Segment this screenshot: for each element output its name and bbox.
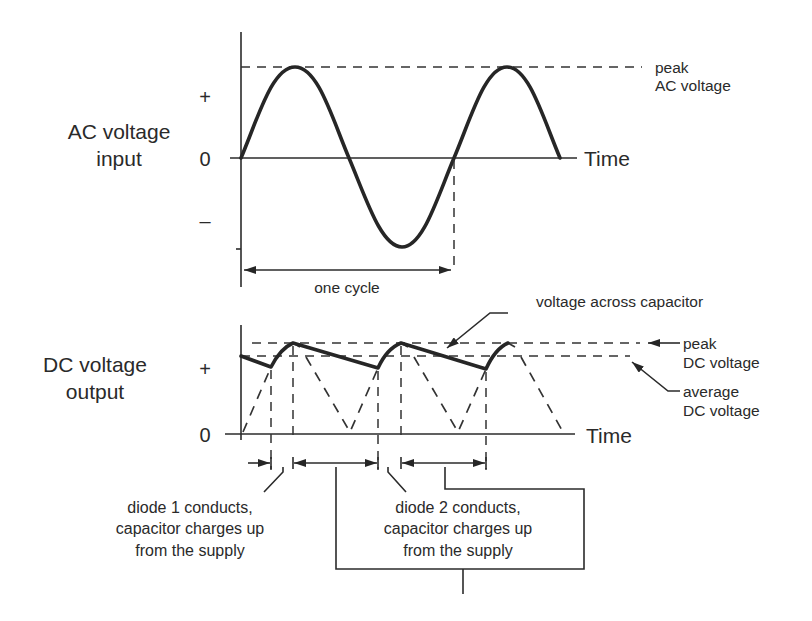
dc-average-label-line2: DC voltage [683, 402, 760, 419]
ac-zero-label: 0 [199, 148, 210, 170]
dc-peak-label-line1: peak [683, 335, 717, 352]
ac-minus-label: – [199, 210, 211, 232]
dc-title-line1: DC voltage [43, 353, 147, 376]
dc-zero-label: 0 [199, 424, 210, 446]
diode1-leader [264, 467, 283, 492]
dc-peak-label-line2: DC voltage [683, 354, 760, 371]
capacitor-label: voltage across capacitor [536, 293, 703, 310]
ac-peak-label-line1: peak [655, 59, 689, 76]
ac-title-line2: input [96, 147, 142, 170]
diode2-leader [388, 467, 406, 492]
ac-sine-wave [241, 67, 560, 247]
ac-plus-label: + [199, 86, 211, 108]
rectifier-diagram: AC voltage input + 0 – Time peak AC volt… [0, 0, 812, 621]
dc-average-arrow [632, 362, 680, 391]
diode1-text-line1: diode 1 conducts, [127, 499, 252, 516]
conduction-annotations: diode 1 conducts, capacitor charges up f… [116, 457, 584, 594]
diode2-text-line1: diode 2 conducts, [395, 499, 520, 516]
dc-title-line2: output [66, 380, 125, 403]
ac-panel: AC voltage input + 0 – Time peak AC volt… [68, 32, 731, 296]
one-cycle-label: one cycle [314, 279, 379, 296]
ac-time-label: Time [584, 147, 630, 170]
dc-plus-label: + [199, 358, 211, 380]
dc-average-label-line1: average [683, 383, 739, 400]
diode2-text-line2: capacitor charges up [384, 520, 533, 537]
diode1-text-line2: capacitor charges up [116, 520, 265, 537]
diode2-text-line3: from the supply [403, 542, 512, 559]
ac-title-line1: AC voltage [68, 120, 171, 143]
diode1-text-line3: from the supply [135, 542, 244, 559]
dc-panel: DC voltage output + 0 Time [43, 293, 760, 470]
ac-peak-label-line2: AC voltage [655, 77, 731, 94]
dc-time-label: Time [586, 424, 632, 447]
